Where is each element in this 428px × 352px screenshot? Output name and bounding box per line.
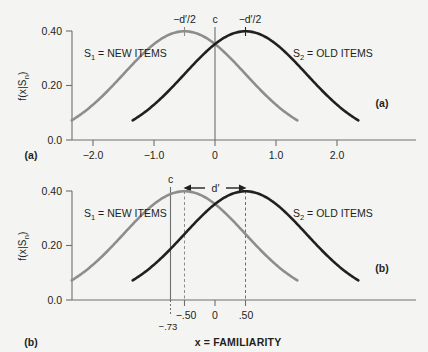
panel-tag-b-left: (b) [24, 336, 37, 348]
series-label-s1-a-tail: = NEW ITEMS [95, 47, 166, 59]
left-peak-label-a: −d′/2 [173, 13, 196, 25]
criterion-label-b: c [168, 173, 173, 185]
panel-b: 0.0 0.20 0.40 f(x|Sn) −.50 0 .50 c −.73 [0, 160, 428, 352]
y-tick-label-b-0: 0.0 [47, 294, 62, 306]
series-label-s2-b-main: S [293, 207, 300, 219]
y-tick-label-a-1: 0.20 [42, 79, 63, 91]
series-label-s2-b-tail: = OLD ITEMS [304, 207, 373, 219]
y-tick-label-a-0: 0.0 [47, 134, 62, 146]
criterion-label-a: c [212, 13, 217, 25]
y-axis-title-a-tail: ) [17, 71, 28, 75]
svg-text:f(x|Sn): f(x|Sn) [17, 231, 31, 260]
y-axis-title-b-tail: ) [17, 231, 28, 235]
series-label-s1-b-main: S [84, 207, 91, 219]
y-axis-title-b: f(x|Sn) [17, 231, 31, 260]
panel-a: 0.0 0.20 0.40 f(x|Sn) −2.0 −1.0 0 1.0 2.… [0, 0, 428, 176]
x-tick-label-b-0: −.50 [176, 309, 197, 321]
series-label-s2-a-main: S [293, 47, 300, 59]
criterion-value-label-b: −.73 [159, 321, 178, 332]
y-axis-title-a: f(x|Sn) [17, 71, 31, 100]
series-label-s2-a: S2 = OLD ITEMS [293, 47, 373, 62]
series-label-s1-a-main: S [84, 47, 91, 59]
panel-tag-a-right: (a) [376, 97, 389, 109]
series-label-s1-b: S1 = NEW ITEMS [84, 207, 167, 222]
y-tick-label-a-2: 0.40 [42, 25, 63, 37]
panel-b-plot: 0.0 0.20 0.40 f(x|Sn) −.50 0 .50 c −.73 [0, 160, 428, 352]
series-label-s2-a-tail: = OLD ITEMS [304, 47, 373, 59]
panel-tag-b-right: (b) [375, 262, 388, 274]
y-axis-title-b-main: f(x|S [17, 239, 28, 261]
panel-a-plot: 0.0 0.20 0.40 f(x|Sn) −2.0 −1.0 0 1.0 2.… [0, 0, 428, 176]
signal-detection-figure: 0.0 0.20 0.40 f(x|Sn) −2.0 −1.0 0 1.0 2.… [0, 0, 428, 352]
series-label-s1-b-tail: = NEW ITEMS [95, 207, 166, 219]
series-label-s1-a: S1 = NEW ITEMS [84, 47, 167, 62]
right-peak-label-a: −d′/2 [239, 13, 262, 25]
y-tick-label-b-1: 0.20 [42, 239, 63, 251]
y-tick-label-b-2: 0.40 [42, 185, 63, 197]
svg-text:f(x|Sn): f(x|Sn) [17, 71, 31, 100]
y-axis-title-a-main: f(x|S [17, 79, 28, 101]
series-label-s2-b: S2 = OLD ITEMS [293, 207, 373, 222]
x-axis-title-b: x = FAMILIARITY [195, 336, 282, 348]
x-tick-label-b-2: .50 [239, 309, 254, 321]
x-tick-label-b-1: 0 [212, 309, 218, 321]
dprime-label-b: d′ [212, 182, 220, 194]
